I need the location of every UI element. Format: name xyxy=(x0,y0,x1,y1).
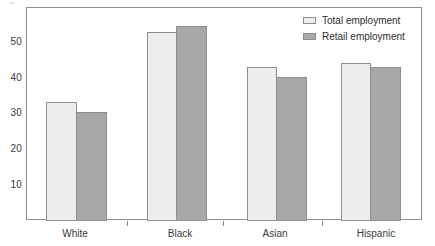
plot-area: Total employment Retail employment xyxy=(26,7,422,220)
bar-white-retail xyxy=(76,112,107,221)
bar-hispanic-retail xyxy=(370,67,401,221)
legend-label-total: Total employment xyxy=(322,15,400,26)
legend-item-total-employment: Total employment xyxy=(303,13,405,27)
bar-black-total xyxy=(147,32,177,221)
bar-hispanic-total xyxy=(341,63,371,221)
bar-asian-total xyxy=(247,67,277,221)
x-tick-label-white: White xyxy=(62,228,88,239)
y-tick-label-10: 10 xyxy=(10,180,22,190)
legend: Total employment Retail employment xyxy=(303,13,405,45)
x-tick-label-asian: Asian xyxy=(262,228,287,239)
x-tick-label-black: Black xyxy=(168,228,192,239)
y-tick-label-40: 40 xyxy=(10,73,22,83)
bar-asian-retail xyxy=(276,77,307,221)
y-tick-label-30: 30 xyxy=(10,108,22,118)
bar-chart: 50 40 30 20 10 Total employment xyxy=(0,0,435,246)
legend-swatch-total-icon xyxy=(303,17,316,24)
bar-black-retail xyxy=(176,26,207,221)
legend-item-retail-employment: Retail employment xyxy=(303,29,405,43)
y-tick-label-50: 50 xyxy=(10,37,22,47)
legend-swatch-retail-icon xyxy=(303,33,316,40)
legend-label-retail: Retail employment xyxy=(322,31,405,42)
x-tick-label-hispanic: Hispanic xyxy=(357,228,395,239)
x-axis-separator-3 xyxy=(322,221,323,226)
x-axis-separator-1 xyxy=(127,221,128,226)
x-axis-separator-2 xyxy=(223,221,224,226)
y-axis: 50 40 30 20 10 xyxy=(0,0,22,246)
bar-white-total xyxy=(46,102,77,221)
y-tick-label-20: 20 xyxy=(10,144,22,154)
scan-speck xyxy=(10,2,14,4)
